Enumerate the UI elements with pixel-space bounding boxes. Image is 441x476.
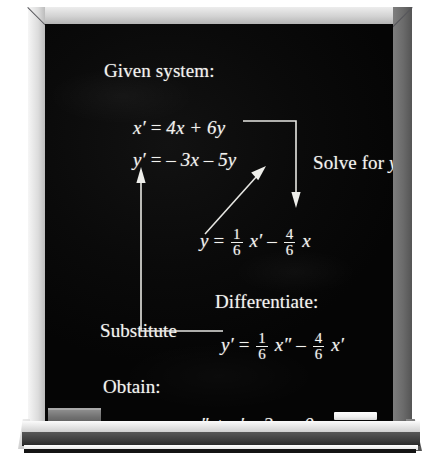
chalk-stick[interactable] [334,412,377,420]
chalkboard-frame: Given system: x′ = 4x + 6y y′ = – 3x – 5… [28,7,412,447]
chalk-tray-front [22,432,420,446]
differentiate-arrow [205,176,257,234]
chalk-tray-shadow [24,449,416,453]
substitute-arrowhead [136,167,145,183]
frame-left-rail [28,7,45,447]
solve-for-y-arrow [243,121,296,196]
frame-top-rail [28,7,412,24]
chalkboard-scene: Given system: x′ = 4x + 6y y′ = – 3x – 5… [0,0,441,476]
substitute-arrow [141,179,223,331]
differentiate-arrowhead [251,166,266,180]
arrow-overlay [45,24,393,424]
chalkboard-surface: Given system: x′ = 4x + 6y y′ = – 3x – 5… [45,24,393,424]
frame-right-rail [393,7,412,447]
solve-for-y-arrowhead [291,192,300,208]
chalk-tray-top [22,421,420,432]
